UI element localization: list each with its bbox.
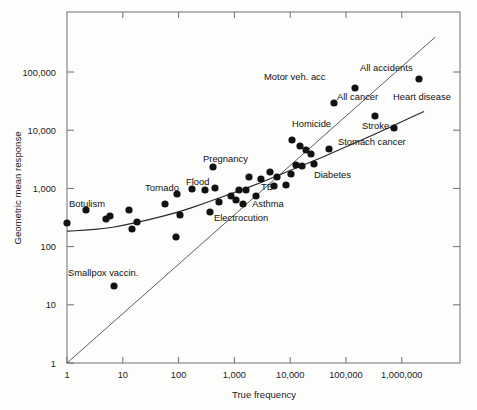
x-tick-label: 100 <box>171 370 187 380</box>
data-point: Pregnancy — 430, 2000 <box>209 163 216 170</box>
data-point: 17, 160 <box>128 225 135 232</box>
x-tick-label: 1,000 <box>223 370 246 380</box>
chart-canvas: 1, 190Botulism — 2.2, 3305, 2457, 27013,… <box>0 0 477 410</box>
y-tick-label: 1,000 <box>33 184 56 194</box>
point-label: Flood <box>186 176 209 187</box>
data-point: 1, 190 <box>63 219 70 226</box>
y-tick-label: 10,000 <box>28 126 56 136</box>
data-point: 7, 270 <box>106 212 113 219</box>
data-point: 2800, 1350 <box>245 173 252 180</box>
point-label: Asthma <box>252 198 285 209</box>
risk-perception-scatter-figure: 1, 190Botulism — 2.2, 3305, 2457, 27013,… <box>0 0 477 410</box>
data-point: Diabetes — 13000, 1000 <box>282 181 289 188</box>
point-label: TB <box>261 181 273 192</box>
y-tick-label: 10 <box>46 300 56 310</box>
point-label: Heart disease <box>393 91 451 102</box>
point-labels-layer: BotulismSmallpox vaccin.TornadoFloodPreg… <box>68 62 451 278</box>
y-tick-label: 100 <box>40 242 56 252</box>
point-label: Electrocution <box>214 212 268 223</box>
point-label: Tornado <box>145 182 179 193</box>
data-point: All cancer — 160000, 22000 <box>371 112 378 119</box>
y-axis-title: Geometric mean response <box>12 131 23 244</box>
point-label: Smallpox vaccin. <box>68 267 138 278</box>
x-axis-ticks <box>67 357 402 363</box>
x-tick-label: 10,000 <box>276 370 304 380</box>
top-axis-ticks <box>123 12 402 18</box>
data-points-layer: 1, 190Botulism — 2.2, 3305, 2457, 27013,… <box>63 75 422 289</box>
data-point: 13, 330 <box>125 206 132 213</box>
x-tick-label: 100,000 <box>329 370 363 380</box>
data-point: 26000, 5000 <box>296 142 303 149</box>
data-point: 480, 870 <box>211 184 218 191</box>
point-label: Homicide <box>292 118 331 129</box>
data-point: 15000, 1600 <box>287 170 294 177</box>
point-label: Motor veh. acc <box>264 71 326 82</box>
y-axis-tick-labels: 1101001,00010,000100,000 <box>22 68 56 369</box>
data-point: 5200, 1700 <box>266 168 273 175</box>
data-point: 100, 115 <box>172 233 179 240</box>
data-point: Heart disease — 350000, 13000 <box>390 124 397 131</box>
point-label: Stroke <box>362 120 389 131</box>
data-point: 6800, 1400 <box>273 173 280 180</box>
x-axis-title: True frequency <box>232 389 296 400</box>
data-point: 1700, 510 <box>232 196 239 203</box>
point-label: Pregnancy <box>203 153 248 164</box>
data-point: 17000, 2300 <box>292 161 299 168</box>
point-label: Stomach cancer <box>338 136 406 147</box>
y-tick-label: 100,000 <box>22 68 56 78</box>
right-axis-ticks <box>453 72 460 305</box>
point-label: Diabetes <box>314 169 351 180</box>
y-axis-ticks <box>67 72 74 363</box>
data-point: Stomach cancer — 55000, 2400 <box>310 160 317 167</box>
x-axis-tick-labels: 1101001,00010,000100,0001,000,000 <box>64 370 422 380</box>
data-point: 1500, 790 <box>242 186 249 193</box>
x-tick-label: 1 <box>64 370 69 380</box>
data-point: 22000, 2200 <box>298 162 305 169</box>
data-point: Stroke — 90000, 4200 <box>325 145 332 152</box>
x-tick-label: 1,000,000 <box>381 370 422 380</box>
data-point: 19, 205 <box>133 218 140 225</box>
data-point: 1000000, 37000 <box>415 75 422 82</box>
point-label: Botulism <box>69 198 105 209</box>
data-point: 700, 470 <box>215 198 222 205</box>
data-point: 330, 800 <box>201 186 208 193</box>
point-label: All accidents <box>360 62 413 73</box>
data-point: Asthma — 1900, 430 <box>239 200 246 207</box>
data-point: 118, 270 <box>176 211 183 218</box>
x-tick-label: 10 <box>118 370 128 380</box>
point-label: All cancer <box>337 91 378 102</box>
data-point: Homicide — 19000, 6800 <box>288 136 295 143</box>
data-point: 52, 430 <box>161 200 168 207</box>
data-point: 1400, 810 <box>235 186 242 193</box>
data-point: 45000, 3400 <box>307 150 314 157</box>
y-tick-label: 1 <box>51 359 56 369</box>
data-point: Smallpox vaccin. — 7, 21 <box>110 282 117 289</box>
data-point: Electrocution — 900, 310 <box>206 208 213 215</box>
